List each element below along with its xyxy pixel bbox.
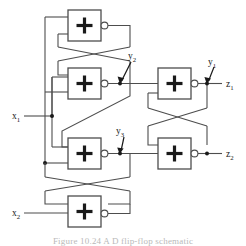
z1-output-group: z1 [226,79,234,91]
label-y2: y2 [128,51,137,63]
gate-bottom-left-group [68,196,130,227]
label-x2: x2 [12,208,21,220]
cross1-left-down [58,61,68,75]
figure-caption: Figure 10.24 A D flip-flop schematic [0,235,246,246]
y1-node-group: y1 [204,57,216,86]
circuit-diagram: x1 [0,0,246,246]
x1-input-group: x1 [12,111,54,123]
cross3-left-down [148,126,158,145]
gate-bottom-left-output-bubble-icon [101,210,108,217]
label-y3: y3 [116,126,125,138]
label-z2: z2 [226,149,234,161]
cross2-left-down [45,191,68,204]
cross2-right-down [108,191,130,204]
gate-upper-mid-left-output-bubble-icon [101,80,108,87]
y2-node-group: y2 [118,51,137,86]
y3-node-group: y3 [116,126,125,156]
x2-input-group: x2 [12,208,68,220]
gate-bottom-right-output-bubble-icon [191,150,198,157]
left-feedback-bus-group [45,17,52,163]
gate-top-left-output-bubble-icon [101,22,108,29]
gate-lower-mid-left-group [43,138,158,169]
gate-top-right-output-bubble-icon [191,80,198,87]
gate-bottom-left-output-wire [108,204,130,214]
gate-bottom-right-group [158,138,222,169]
label-z1: z1 [226,79,234,91]
gate-lower-mid-left-input-a [62,139,68,147]
figure-root: x1 [0,0,246,246]
z2-junction-dot [205,152,209,156]
gate-top-left-output-wire [108,26,130,48]
x1-junction-dot [50,114,54,118]
z2-output-group: z2 [205,149,234,161]
gate-upper-mid-left-group [45,68,158,99]
label-x1: x1 [12,111,20,123]
gate-lower-mid-left-output-bubble-icon [101,150,108,157]
label-y1: y1 [208,57,216,69]
